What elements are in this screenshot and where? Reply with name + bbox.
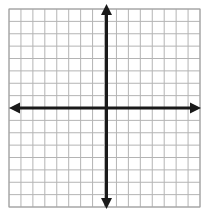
coordinate-grid-svg [0,0,206,214]
coordinate-grid-figure [0,0,206,214]
